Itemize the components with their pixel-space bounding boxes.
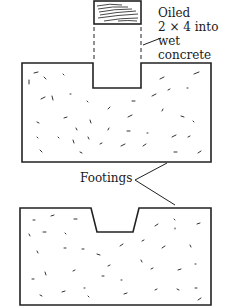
upper-footing: [22, 63, 211, 162]
dashed-guide-lines: [94, 27, 141, 62]
oiled-label-line-3: wet: [158, 34, 242, 48]
oiled-2x4-label: Oiled 2 × 4 into wet concrete: [158, 6, 242, 62]
footings-label: Footings: [80, 171, 132, 185]
oiled-label-line-2: 2 × 4 into: [158, 20, 242, 34]
lumber-block: [94, 1, 141, 24]
oiled-label-line-1: Oiled: [158, 6, 242, 20]
lower-footing: [20, 208, 211, 305]
footings-leader-lines: [135, 163, 175, 205]
oiled-label-line-4: concrete: [158, 48, 242, 62]
